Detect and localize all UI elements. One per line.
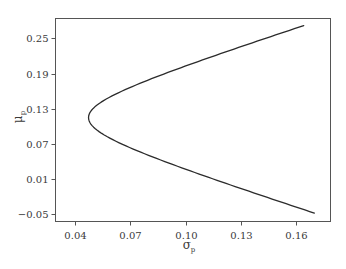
y-tick-label: 0.25: [26, 33, 48, 44]
y-tick-label: 0.01: [26, 174, 48, 185]
frontier-chart: 0.040.070.100.130.16 0.250.190.130.070.0…: [0, 0, 346, 269]
x-tick-label: 0.07: [119, 230, 141, 241]
y-axis-label-main: μ: [11, 115, 25, 123]
y-tick-label: 0.19: [26, 69, 48, 80]
x-axis-label-main: σ: [183, 238, 191, 252]
y-tick-label: 0.07: [26, 139, 48, 150]
frontier-curve: [89, 26, 315, 214]
x-tick-label: 0.13: [230, 230, 252, 241]
x-axis-label-sub: p: [191, 246, 196, 254]
y-axis-label: μp: [11, 110, 27, 123]
plot-frame: [56, 19, 331, 222]
y-axis-ticks: 0.250.190.130.070.01−0.05: [18, 33, 56, 220]
y-tick-label: −0.05: [18, 209, 49, 220]
x-tick-label: 0.16: [285, 230, 307, 241]
y-tick-label: 0.13: [26, 104, 48, 115]
y-axis-label-sub: p: [19, 110, 27, 115]
x-tick-label: 0.04: [64, 230, 86, 241]
